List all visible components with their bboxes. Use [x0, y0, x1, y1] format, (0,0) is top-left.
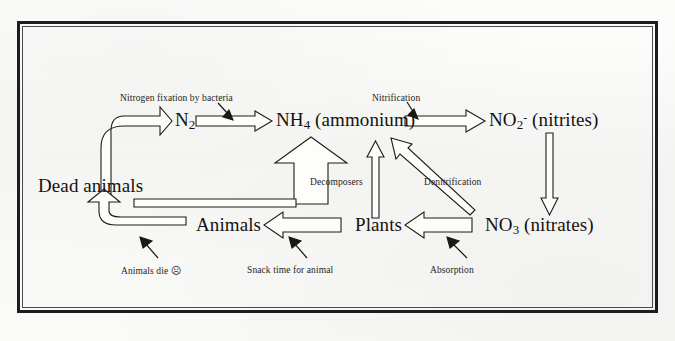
arrow-no3-to-plants [405, 212, 472, 238]
diagram-page: N2 NH4 (ammonium) NO2- (nitrites) NO3 (n… [0, 0, 675, 341]
node-animals: Animals [196, 215, 261, 234]
arrow-n2-to-nh4 [196, 111, 272, 131]
diagram-stage: N2 NH4 (ammonium) NO2- (nitrites) NO3 (n… [0, 0, 675, 341]
node-no2-suffix: (nitrites) [527, 109, 598, 130]
node-plants: Plants [355, 215, 402, 234]
node-no2: NO2- (nitrites) [489, 110, 599, 132]
arrow-no2-to-no3 [541, 133, 558, 215]
arrow-layer [0, 0, 675, 341]
caption-decomposers: Decomposers [310, 178, 363, 188]
node-no3: NO3 (nitrates) [485, 215, 594, 237]
connector-deadanimals-to-decomposers [134, 199, 296, 207]
pointer-head-snack-time [289, 237, 301, 248]
arrow-nh4-to-no2 [405, 110, 485, 132]
node-no2-label: NO [489, 109, 517, 130]
pointer-head-absorption [447, 237, 459, 248]
node-nh4-suffix: (ammonium) [310, 109, 415, 130]
caption-animals-die-text: Animals die [121, 266, 168, 276]
caption-animals-die: Animals die ☹ [121, 266, 181, 277]
arrow-decomposers-to-nh4 [275, 137, 347, 204]
caption-denitrification: Denitrification [424, 178, 481, 188]
caption-absorption: Absorption [430, 266, 474, 276]
caption-snack-time: Snack time for animal [247, 266, 333, 276]
caption-nitrogen-fixation: Nitrogen fixation by bacteria [120, 94, 233, 104]
node-no3-suffix: (nitrates) [519, 214, 593, 235]
node-nh4-label: NH [276, 109, 304, 130]
node-n2: N2 [175, 110, 195, 132]
sad-face-icon: ☹ [171, 265, 182, 276]
node-no3-label: NO [485, 214, 513, 235]
node-n2-sub: 2 [189, 117, 196, 132]
pointer-head-animals-die [140, 237, 152, 248]
arrow-plants-to-animals [264, 212, 341, 238]
node-nh4: NH4 (ammonium) [276, 110, 415, 132]
node-dead-animals: Dead animals [38, 176, 143, 195]
node-n2-label: N [175, 109, 189, 130]
caption-nitrification: Nitrification [372, 94, 420, 104]
arrow-plants-to-nh4 [367, 141, 384, 218]
